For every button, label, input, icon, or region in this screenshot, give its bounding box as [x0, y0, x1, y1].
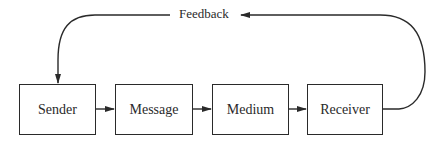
sender-box: Sender [19, 84, 96, 135]
feedback-loop-left [58, 15, 170, 83]
message-box: Message [115, 84, 193, 135]
receiver-box: Receiver [307, 84, 383, 135]
feedback-label: Feedback [176, 6, 232, 22]
medium-box: Medium [212, 84, 289, 135]
